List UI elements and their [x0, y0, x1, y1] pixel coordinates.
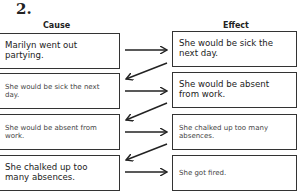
arrows-layer [0, 0, 303, 194]
arrow-diag-1 [126, 63, 167, 79]
arrow-diag-2 [126, 103, 167, 120]
arrow-diag-3 [126, 144, 167, 160]
